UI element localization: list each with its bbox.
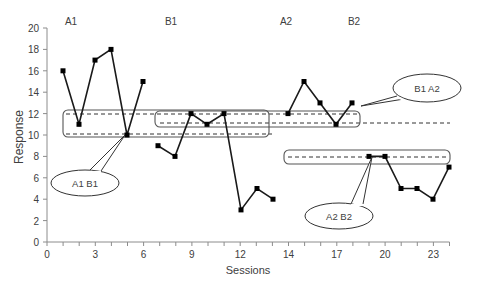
callout: A2 B2 <box>305 157 373 229</box>
data-point-marker <box>61 68 66 73</box>
data-point-marker <box>109 47 114 52</box>
data-point-marker <box>125 133 130 138</box>
y-tick-label: 14 <box>28 87 40 98</box>
data-point-marker <box>286 111 291 116</box>
phase-label-A2: A2 <box>280 16 293 27</box>
data-point-marker <box>239 207 244 212</box>
data-series <box>61 47 452 213</box>
phase-label-B1: B1 <box>165 16 178 27</box>
data-point-marker <box>271 197 276 202</box>
data-point-marker <box>173 154 178 159</box>
single-case-design-chart: 0246810121416182003691214172023 A1 B1B1 … <box>0 0 479 290</box>
data-point-marker <box>222 111 227 116</box>
x-tick-label: 3 <box>93 249 99 260</box>
series-line <box>63 49 143 135</box>
phase-labels: A1B1A2B2 <box>65 16 361 27</box>
y-tick-label: 18 <box>28 44 40 55</box>
y-tick-label: 6 <box>33 173 39 184</box>
series-line <box>158 114 273 210</box>
y-axis-label: Response <box>12 110 26 164</box>
phase-label-A1: A1 <box>65 16 78 27</box>
series-line <box>369 156 449 199</box>
y-tick-label: 16 <box>28 66 40 77</box>
y-tick-label: 4 <box>33 194 39 205</box>
y-tick-label: 10 <box>28 130 40 141</box>
y-tick-label: 0 <box>33 237 39 248</box>
data-point-marker <box>205 122 210 127</box>
series-A1 <box>61 47 146 138</box>
series-A2 <box>286 79 355 127</box>
callout: A1 B1 <box>51 135 125 196</box>
x-tick-label: 14 <box>283 249 295 260</box>
data-point-marker <box>447 165 452 170</box>
x-tick-label: 20 <box>380 249 392 260</box>
callout-text: A1 B1 <box>72 178 98 189</box>
x-tick-label: 12 <box>235 249 247 260</box>
y-tick-label: 2 <box>33 216 39 227</box>
y-tick-label: 20 <box>28 23 40 34</box>
data-point-marker <box>141 79 146 84</box>
comparison-box <box>155 111 360 127</box>
data-point-marker <box>383 154 388 159</box>
x-tick-label: 17 <box>331 249 343 260</box>
data-point-marker <box>156 143 161 148</box>
data-point-marker <box>415 186 420 191</box>
data-point-marker <box>318 100 323 105</box>
data-point-marker <box>399 186 404 191</box>
series-B2 <box>367 154 452 202</box>
callout-text: B1 A2 <box>414 83 439 94</box>
y-tick-label: 8 <box>33 151 39 162</box>
callout: B1 A2 <box>361 74 461 106</box>
y-tick-label: 12 <box>28 109 40 120</box>
phase-label-B2: B2 <box>348 16 361 27</box>
axes: 0246810121416182003691214172023 <box>28 23 450 260</box>
x-tick-label: 6 <box>141 249 147 260</box>
data-point-marker <box>189 111 194 116</box>
x-tick-label: 0 <box>44 249 50 260</box>
data-point-marker <box>350 100 355 105</box>
x-tick-label: 9 <box>189 249 195 260</box>
callouts: A1 B1B1 A2A2 B2 <box>51 74 461 229</box>
comparison-boxes <box>63 110 450 164</box>
callout-text: A2 B2 <box>326 211 352 222</box>
data-point-marker <box>302 79 307 84</box>
x-tick-label: 23 <box>428 249 440 260</box>
callout-pointer <box>89 135 125 171</box>
data-point-marker <box>367 154 372 159</box>
data-point-marker <box>334 122 339 127</box>
data-point-marker <box>255 186 260 191</box>
data-point-marker <box>77 122 82 127</box>
x-axis-label: Sessions <box>226 264 271 276</box>
data-point-marker <box>93 58 98 63</box>
data-point-marker <box>431 197 436 202</box>
series-B1 <box>156 111 276 212</box>
